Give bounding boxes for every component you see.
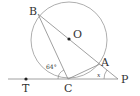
point-t	[24, 77, 27, 80]
label-c: C	[64, 82, 72, 95]
angle-arc-p	[104, 70, 107, 79]
geometry-diagram: B O A P C T 64° x	[0, 0, 140, 96]
angle-label-x: x	[97, 71, 101, 78]
chord-ca	[68, 64, 100, 79]
label-o: O	[73, 28, 82, 41]
label-p: P	[121, 73, 129, 86]
label-a: A	[100, 56, 110, 69]
label-b: B	[29, 5, 37, 18]
label-t: T	[22, 82, 30, 95]
angle-label-64: 64°	[46, 63, 57, 70]
point-o	[67, 37, 70, 40]
